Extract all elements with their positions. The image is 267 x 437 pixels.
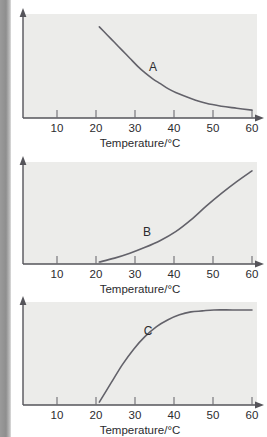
x-tick-label-c-1: 20 (90, 409, 103, 421)
y-axis-arrowhead-a (20, 8, 27, 17)
y-axis-arrowhead-c (20, 296, 27, 305)
plot-area-background-a (23, 14, 257, 118)
x-axis-tick-labels-a: 10 20 30 40 50 60 (51, 122, 259, 134)
chart-c-svg: 10 20 30 40 50 60 Temperature/°C C (0, 290, 267, 437)
x-axis-tick-labels-c: 10 20 30 40 50 60 (51, 409, 259, 421)
x-tick-label-a-4: 50 (207, 122, 220, 134)
x-tick-label-c-5: 60 (246, 409, 259, 421)
x-tick-label-c-3: 40 (168, 409, 181, 421)
curve-label-a: A (149, 60, 157, 74)
x-tick-label-b-3: 40 (168, 268, 181, 280)
x-axis-tick-labels-b: 10 20 30 40 50 60 (51, 268, 259, 280)
chart-a-svg: 10 20 30 40 50 60 Temperature/°C A (0, 0, 267, 152)
chart-b-svg: 10 20 30 40 50 60 Temperature/°C B (0, 148, 267, 296)
x-axis-arrowhead-c (255, 402, 264, 409)
x-axis-title-c: Temperature/°C (100, 424, 181, 436)
x-tick-label-c-0: 10 (51, 409, 64, 421)
chart-panel-a: 10 20 30 40 50 60 Temperature/°C A (0, 0, 267, 152)
x-tick-label-b-4: 50 (207, 268, 220, 280)
x-tick-label-a-2: 30 (129, 122, 142, 134)
x-axis-arrowhead-a (255, 115, 264, 122)
x-tick-label-a-0: 10 (51, 122, 64, 134)
x-tick-label-b-5: 60 (246, 268, 259, 280)
plot-area-background-c (23, 302, 257, 405)
x-tick-label-b-0: 10 (51, 268, 64, 280)
curve-label-b: B (143, 225, 151, 239)
x-tick-label-b-2: 30 (129, 268, 142, 280)
curve-label-c: C (144, 324, 153, 338)
chart-panel-b: 10 20 30 40 50 60 Temperature/°C B (0, 148, 267, 296)
x-tick-label-c-2: 30 (129, 409, 142, 421)
x-tick-label-a-5: 60 (246, 122, 259, 134)
figure-stack: 10 20 30 40 50 60 Temperature/°C A (0, 0, 267, 437)
x-tick-label-c-4: 50 (207, 409, 220, 421)
x-tick-label-a-3: 40 (168, 122, 181, 134)
y-axis-arrowhead-b (20, 156, 27, 165)
x-tick-label-b-1: 20 (90, 268, 103, 280)
chart-panel-c: 10 20 30 40 50 60 Temperature/°C C (0, 290, 267, 437)
x-axis-arrowhead-b (255, 261, 264, 268)
x-tick-label-a-1: 20 (90, 122, 103, 134)
